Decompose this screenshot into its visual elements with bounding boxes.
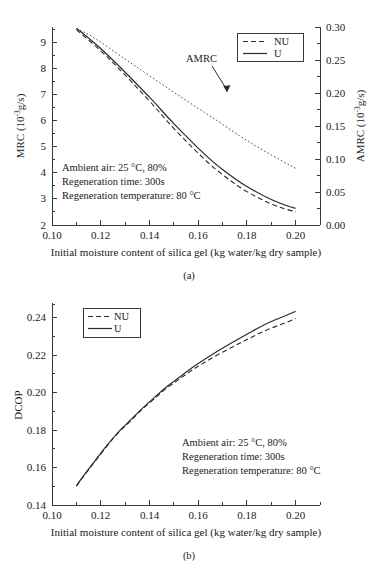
chart-a-x-ticks xyxy=(52,220,320,225)
chart-b-xtick-010: 0.10 xyxy=(42,509,62,521)
chart-a-ytick-3: 3 xyxy=(41,192,47,204)
chart-a-note-2: Regeneration time: 300s xyxy=(62,176,165,187)
chart-b-ylabel: DCOP xyxy=(12,390,24,419)
chart-b-note-1: Ambient air: 25 °C, 80% xyxy=(182,437,287,448)
chart-a-ytick2-010: 0.10 xyxy=(326,153,346,165)
chart-a-note-3: Regeneration temperature: 80 °C xyxy=(62,190,201,201)
chart-b-xtick-018: 0.18 xyxy=(237,509,257,521)
chart-b-xtick-014: 0.14 xyxy=(140,509,160,521)
chart-b-note-2: Regeneration time: 300s xyxy=(182,451,285,462)
chart-a-xtick-020: 0.20 xyxy=(286,229,306,241)
chart-b-ytick-020: 0.20 xyxy=(27,386,47,398)
chart-b-y-ticklabels: 0.14 0.16 0.18 0.20 0.22 0.24 xyxy=(27,311,47,511)
chart-b-ytick-022: 0.22 xyxy=(27,349,46,361)
chart-a-xtick-014: 0.14 xyxy=(140,229,160,241)
chart-a-x-ticklabels: 0.10 0.12 0.14 0.16 0.18 0.20 xyxy=(42,229,305,241)
chart-a-ytick-9: 9 xyxy=(41,36,47,48)
chart-b-legend-box xyxy=(83,308,140,337)
chart-b-xlabel: Initial moisture content of silica gel (… xyxy=(51,526,322,539)
chart-b-y-ticks xyxy=(52,304,57,505)
chart-a-legend[interactable]: NU U xyxy=(238,34,304,62)
chart-a-legend-label-u: U xyxy=(274,48,282,59)
chart-b-svg: 0.14 0.16 0.18 0.20 0.22 0.24 0.10 0.12 … xyxy=(0,285,378,575)
chart-b-legend-label-nu: NU xyxy=(114,311,130,322)
chart-b-xtick-016: 0.16 xyxy=(189,509,209,521)
chart-a-ytick-7: 7 xyxy=(41,88,47,100)
chart-a-left-ticks xyxy=(52,29,57,225)
chart-a-right-ticks xyxy=(315,27,320,225)
chart-a-ytick-6: 6 xyxy=(41,114,47,126)
chart-a-ytick-4: 4 xyxy=(41,166,47,178)
chart-b-x-ticklabels: 0.10 0.12 0.14 0.16 0.18 0.20 xyxy=(42,509,305,521)
chart-a-xlabel: Initial moisture content of silica gel (… xyxy=(51,246,322,259)
chart-b-ytick-024: 0.24 xyxy=(27,311,47,323)
chart-a-svg: 2 3 4 5 6 7 8 9 0.00 0.05 xyxy=(0,0,378,290)
chart-b-ytick-018: 0.18 xyxy=(27,424,47,436)
chart-a-ytick-5: 5 xyxy=(41,140,47,152)
chart-b-x-ticks xyxy=(52,500,320,505)
chart-b-caption: (b) xyxy=(183,550,196,562)
chart-a-xtick-012: 0.12 xyxy=(91,229,110,241)
chart-a-amrc-annotation: AMRC xyxy=(186,53,231,93)
chart-a-ytick2-015: 0.15 xyxy=(326,120,346,132)
chart-a-ytick2-020: 0.20 xyxy=(326,87,346,99)
chart-b-legend[interactable]: NU U xyxy=(83,308,140,337)
chart-a-ytick2-025: 0.25 xyxy=(326,54,346,66)
chart-b-note-3: Regeneration temperature: 80 °C xyxy=(182,465,321,476)
chart-b-xtick-012: 0.12 xyxy=(91,509,110,521)
chart-a-xtick-010: 0.10 xyxy=(42,229,62,241)
chart-a-ytick2-000: 0.00 xyxy=(326,219,346,231)
chart-a-ylabel-left: MRC (10-3g/s) xyxy=(13,93,27,158)
chart-a-right-ticklabels: 0.00 0.05 0.10 0.15 0.20 0.25 0.30 xyxy=(326,21,346,231)
chart-a-note-1: Ambient air: 25 °C, 80% xyxy=(62,162,167,173)
figure-panel-a: 2 3 4 5 6 7 8 9 0.00 0.05 xyxy=(0,0,378,290)
figure-panel-b: 0.14 0.16 0.18 0.20 0.22 0.24 0.10 0.12 … xyxy=(0,285,378,575)
chart-a-left-ticklabels: 2 3 4 5 6 7 8 9 xyxy=(41,36,47,231)
chart-a-notes: Ambient air: 25 °C, 80% Regeneration tim… xyxy=(62,162,201,201)
chart-a-arrow-head xyxy=(223,85,230,92)
chart-b-xtick-020: 0.20 xyxy=(286,509,306,521)
chart-b-notes: Ambient air: 25 °C, 80% Regeneration tim… xyxy=(182,437,321,476)
chart-a-caption: (a) xyxy=(183,270,195,282)
chart-a-xtick-018: 0.18 xyxy=(237,229,257,241)
chart-a-amrc-label: AMRC xyxy=(186,53,217,64)
chart-a-ytick-8: 8 xyxy=(41,62,47,74)
chart-a-ytick2-030: 0.30 xyxy=(326,21,346,33)
chart-a-legend-box xyxy=(238,34,304,62)
chart-b-ytick-016: 0.16 xyxy=(27,461,47,473)
chart-a-xtick-016: 0.16 xyxy=(189,229,209,241)
chart-b-legend-label-u: U xyxy=(114,323,122,334)
chart-a-ytick2-005: 0.05 xyxy=(326,186,346,198)
chart-a-ylabel-right: AMRC (10-3g/s) xyxy=(353,89,367,162)
chart-a-legend-label-nu: NU xyxy=(274,36,290,47)
